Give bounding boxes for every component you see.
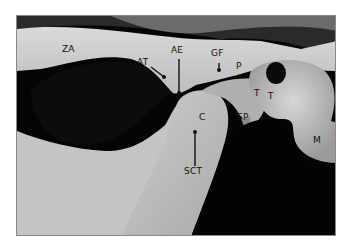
label-c: C xyxy=(199,113,205,122)
label-p: P xyxy=(236,62,242,71)
label-za: ZA xyxy=(62,45,75,54)
label-t: T xyxy=(254,89,260,98)
pointer-AT xyxy=(151,67,164,77)
label-gf: GF xyxy=(211,49,224,58)
label-sp: SP xyxy=(237,113,249,122)
label-sct: SCT xyxy=(184,167,202,176)
label-m: M xyxy=(313,136,321,145)
label-ae: AE xyxy=(171,46,183,55)
label-tr: T xyxy=(268,92,274,101)
label-at: AT xyxy=(137,58,148,67)
